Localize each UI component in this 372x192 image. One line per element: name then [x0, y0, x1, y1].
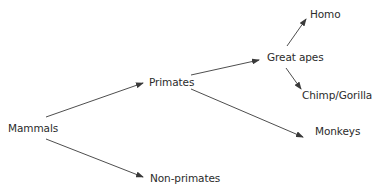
arrow-mammals-to-non-primates: [46, 139, 143, 177]
node-non-primates: Non-primates: [150, 172, 220, 184]
arrow-great-apes-to-homo: [287, 19, 306, 46]
arrow-great-apes-to-chimp-gorilla: [286, 68, 301, 89]
node-primates: Primates: [149, 76, 194, 88]
node-homo: Homo: [310, 8, 341, 20]
node-mammals: Mammals: [8, 122, 58, 134]
node-great-apes: Great apes: [267, 51, 324, 63]
arrow-primates-to-great-apes: [191, 60, 259, 75]
arrow-primates-to-monkeys: [191, 89, 303, 137]
node-monkeys: Monkeys: [315, 125, 360, 137]
node-chimp-gorilla: Chimp/Gorilla: [302, 89, 372, 101]
arrow-mammals-to-primates: [46, 83, 143, 117]
